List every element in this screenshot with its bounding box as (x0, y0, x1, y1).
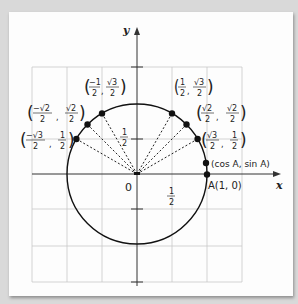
svg-text:−√3: −√3 (26, 131, 43, 140)
y-axis-arrow-icon (134, 27, 140, 35)
svg-text:2: 2 (69, 115, 74, 124)
y-axis-label: y (122, 24, 131, 37)
svg-text:1: 1 (180, 78, 185, 87)
svg-text:2: 2 (180, 89, 185, 98)
svg-text:): ) (68, 130, 75, 150)
svg-text:2: 2 (40, 115, 45, 124)
svg-text:1: 1 (60, 131, 65, 140)
svg-text:): ) (240, 103, 247, 123)
svg-text:2: 2 (197, 89, 202, 98)
label-point-135deg: ( −√2 2 , √2 2 ) (27, 103, 86, 124)
x-axis-label: x (275, 179, 283, 192)
svg-text:√2: √2 (227, 104, 237, 113)
point-60deg (169, 110, 175, 116)
svg-text:): ) (207, 77, 214, 97)
svg-text:,: , (101, 87, 104, 96)
svg-text:2: 2 (230, 115, 235, 124)
svg-text:,: , (216, 113, 219, 122)
svg-text:): ) (120, 77, 127, 97)
point-30deg (194, 136, 200, 142)
svg-text:1: 1 (169, 187, 174, 196)
x-axis-arrow-icon (273, 171, 281, 177)
y-half-tick-label: 1 2 (120, 128, 128, 148)
label-point-45deg: ( √2 2 , √2 2 ) (196, 103, 247, 124)
svg-text:,: , (221, 140, 224, 149)
svg-text:): ) (240, 130, 247, 150)
svg-text:√3: √3 (194, 78, 204, 87)
svg-text:−√2: −√2 (33, 104, 50, 113)
svg-text:2: 2 (92, 89, 97, 98)
svg-text:2: 2 (122, 139, 127, 148)
unit-circle-diagram: y x 0 1 2 1 2 ( 1 2 , (0, 0, 298, 304)
svg-text:2: 2 (210, 142, 215, 151)
label-point-a: A(1, 0) (208, 180, 242, 191)
label-point-30deg: ( √3 2 , 1 2 ) (201, 130, 247, 151)
x-half-tick-label: 1 2 (167, 187, 175, 207)
svg-text:2: 2 (205, 115, 210, 124)
svg-text:1: 1 (122, 128, 127, 137)
label-point-150deg: ( −√3 2 , 1 2 ) (20, 130, 75, 151)
svg-text:2: 2 (33, 142, 38, 151)
origin-marker (134, 172, 140, 175)
svg-text:2: 2 (110, 89, 115, 98)
label-point-120deg: ( −1 2 , √3 2 ) (84, 77, 127, 98)
point-120deg (99, 110, 105, 116)
svg-text:√3: √3 (107, 78, 117, 87)
svg-text:(: ( (174, 78, 179, 98)
svg-text:,: , (56, 113, 59, 122)
svg-text:√2: √2 (202, 104, 212, 113)
svg-text:2: 2 (60, 142, 65, 151)
label-cos-sin-a: (cos A, sin A) (211, 159, 270, 169)
svg-text:1: 1 (232, 131, 237, 140)
origin-label: 0 (125, 181, 132, 194)
svg-text:,: , (49, 140, 52, 149)
svg-text:−1: −1 (89, 78, 101, 87)
svg-text:√3: √3 (207, 131, 217, 140)
point-a (204, 171, 210, 177)
svg-text:2: 2 (232, 142, 237, 151)
svg-text:): ) (79, 103, 86, 123)
point-cos-sin-a (203, 160, 209, 166)
svg-text:,: , (187, 87, 190, 96)
label-point-60deg: ( 1 2 , √3 2 ) (174, 77, 214, 98)
point-45deg (183, 121, 189, 127)
svg-text:√2: √2 (66, 104, 76, 113)
svg-text:2: 2 (169, 198, 174, 207)
